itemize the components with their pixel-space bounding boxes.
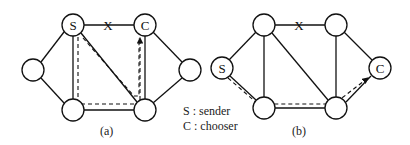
node-left-a [22,59,44,81]
node-bottom-left-a [62,99,84,121]
legend-sender: S : sender [183,104,238,119]
node-top-right-b [325,14,347,36]
label-s-a: S [69,18,76,33]
legend-chooser: C : chooser [183,119,238,134]
node-bottom-right-a [134,99,156,121]
broken-link-x-a: X [103,18,113,33]
figure-a-edges [41,25,182,110]
node-bottom-right-b [325,97,347,119]
label-c-a: C [141,18,150,33]
label-c-b: C [376,61,385,76]
label-s-b: S [218,61,225,76]
node-right-a [179,59,201,81]
node-top-left-b [253,14,275,36]
legend: S : sender C : chooser [183,104,238,134]
caption-b: (b) [292,124,306,139]
caption-a: (a) [100,124,113,139]
broken-link-x-b: X [294,18,304,33]
node-bottom-left-b [253,97,275,119]
figure-b-edges [229,25,372,108]
